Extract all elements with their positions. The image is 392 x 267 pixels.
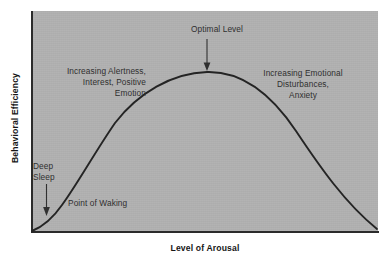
annotation-deep-sleep: Deep Sleep [33,161,75,183]
annotation-right-region: Increasing Emotional Disturbances, Anxie… [243,68,363,102]
optimal-level-arrow-head [204,63,211,72]
x-axis-label: Level of Arousal [31,243,379,253]
curve-overlay [0,0,392,267]
y-axis-label: Behavioral Efficiency [10,54,20,182]
annotation-point-of-waking: Point of Waking [68,198,160,209]
annotation-optimal-level: Optimal Level [191,24,299,35]
annotation-left-region: Increasing Alertness, Interest, Positive… [44,66,146,100]
figure-canvas: Optimal Level Increasing Alertness, Inte… [0,0,392,267]
deep-sleep-arrow-head [43,207,50,216]
